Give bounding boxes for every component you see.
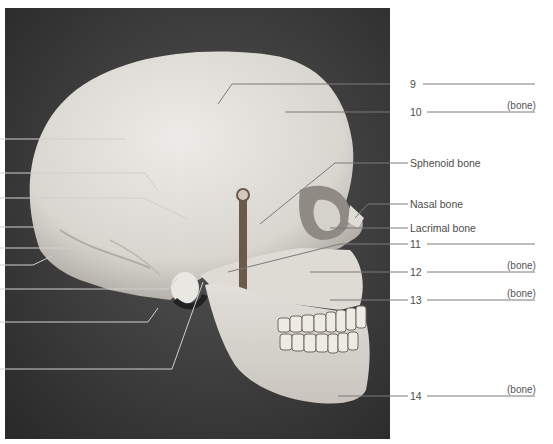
label-13: 13 xyxy=(408,294,424,306)
bone-suffix-13: (bone) xyxy=(507,288,536,300)
label-12: 12 xyxy=(408,266,424,278)
bone-suffix-12: (bone) xyxy=(507,260,536,272)
label-nasal: Nasal bone xyxy=(408,198,465,210)
label-9: 9 xyxy=(408,78,418,90)
label-14: 14 xyxy=(408,390,424,402)
label-11: 11 xyxy=(408,238,423,250)
bone-suffix-10: (bone) xyxy=(507,100,536,112)
bone-suffix-14: (bone) xyxy=(507,384,536,396)
label-lacrimal: Lacrimal bone xyxy=(408,222,478,234)
label-10: 10 xyxy=(408,106,424,118)
label-sphenoid: Sphenoid bone xyxy=(408,157,483,169)
ear-rod xyxy=(239,195,247,295)
skull-diagram: 910(bone)Sphenoid boneNasal boneLacrimal… xyxy=(0,0,553,444)
